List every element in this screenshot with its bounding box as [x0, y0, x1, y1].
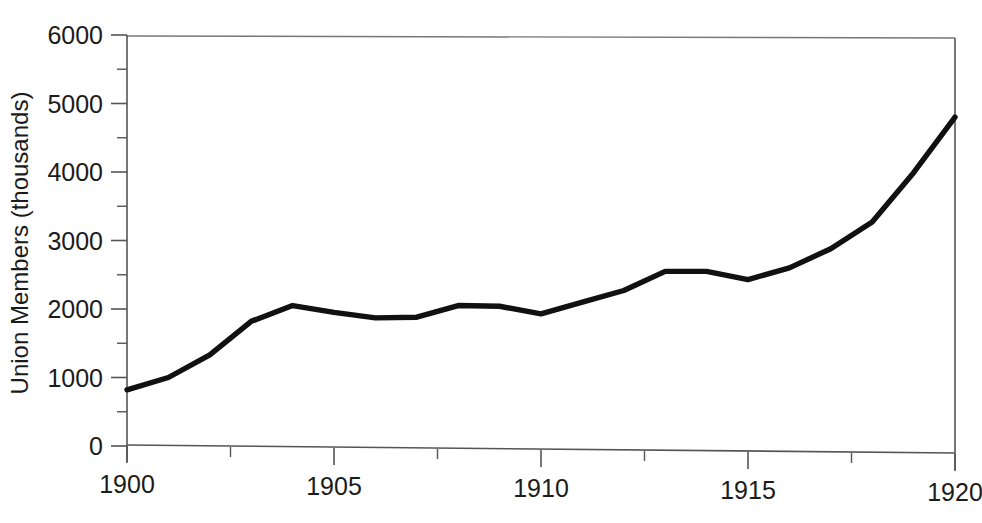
x-tick-label: 1910: [513, 474, 569, 502]
y-tick-label: 6000: [47, 21, 103, 49]
y-tick-label: 4000: [47, 158, 103, 186]
y-axis-tick-labels: 0100020003000400050006000: [47, 21, 103, 460]
y-tick-label: 1000: [47, 364, 103, 392]
line-chart: 0100020003000400050006000 19001905191019…: [0, 0, 982, 523]
x-tick-label: 1905: [306, 472, 362, 500]
y-tick-label: 2000: [47, 295, 103, 323]
plot-frame-top: [127, 36, 955, 38]
y-axis-ticks: [111, 35, 127, 446]
x-tick-label: 1915: [720, 476, 776, 504]
chart-page: 0100020003000400050006000 19001905191019…: [0, 0, 982, 523]
y-tick-label: 0: [89, 432, 103, 460]
x-tick-label: 1900: [99, 470, 155, 498]
y-axis-title: Union Members (thousands): [6, 92, 33, 395]
data-series-line: [127, 117, 955, 390]
y-tick-label: 5000: [47, 90, 103, 118]
x-axis-tick-labels: 19001905191019151920: [99, 470, 982, 506]
y-tick-label: 3000: [47, 227, 103, 255]
x-tick-label: 1920: [927, 478, 982, 506]
